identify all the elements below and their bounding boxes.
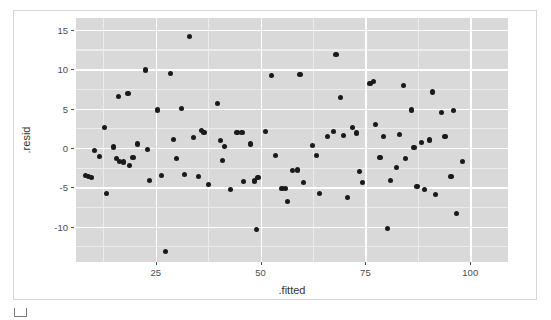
data-point [228, 187, 233, 192]
y-tick-label: -10 [40, 221, 68, 232]
data-point [333, 52, 338, 57]
data-point [295, 167, 300, 172]
data-point [297, 72, 302, 77]
gridline [76, 207, 508, 208]
data-point [460, 159, 465, 164]
gridline [261, 18, 263, 262]
data-point [163, 249, 168, 254]
data-point [255, 175, 260, 180]
gridline [156, 18, 158, 262]
data-point [285, 199, 290, 204]
data-point [331, 129, 336, 134]
caption-strip [0, 308, 551, 320]
x-tick-label: 100 [462, 267, 478, 278]
y-tick-label: 15 [40, 24, 68, 35]
gridline [365, 18, 367, 262]
y-tick-mark [71, 30, 74, 31]
data-point [314, 153, 319, 158]
data-point [273, 153, 278, 158]
data-point [345, 195, 350, 200]
data-point [220, 158, 225, 163]
y-tick-mark [71, 227, 74, 228]
data-point [263, 129, 268, 134]
data-point [174, 156, 179, 161]
data-point [97, 154, 102, 159]
data-point [427, 137, 432, 142]
data-point [409, 107, 414, 112]
data-point [248, 141, 253, 146]
data-point [104, 191, 109, 196]
gridline [103, 18, 104, 262]
y-tick-mark [71, 148, 74, 149]
y-tick-mark [71, 109, 74, 110]
data-point [182, 172, 187, 177]
gridline [76, 128, 508, 129]
data-point [310, 143, 315, 148]
data-point [125, 91, 130, 96]
data-point [388, 178, 393, 183]
x-tick-label: 50 [255, 267, 266, 278]
data-point [439, 110, 444, 115]
data-point [414, 184, 419, 189]
data-point [127, 163, 132, 168]
data-point [218, 138, 223, 143]
x-tick-mark [156, 262, 157, 265]
x-tick-mark [470, 262, 471, 265]
data-point [269, 73, 274, 78]
data-point [196, 174, 201, 179]
data-point [145, 147, 150, 152]
y-tick-mark [71, 187, 74, 188]
gridline [470, 18, 472, 262]
data-point [377, 155, 382, 160]
data-point [135, 141, 140, 146]
data-point [168, 71, 173, 76]
data-point [419, 140, 424, 145]
data-point [155, 107, 160, 112]
x-axis-title: .fitted [279, 284, 306, 296]
data-point [341, 133, 346, 138]
data-point [448, 174, 453, 179]
data-point [159, 173, 164, 178]
gridline [76, 246, 508, 247]
data-point [360, 180, 365, 185]
data-point [116, 94, 121, 99]
gridline [76, 30, 508, 32]
data-point [442, 134, 447, 139]
data-point [357, 169, 362, 174]
data-point [422, 187, 427, 192]
data-point [301, 180, 306, 185]
data-point [254, 227, 259, 232]
data-point [290, 168, 295, 173]
data-point [354, 130, 359, 135]
gridline [76, 89, 508, 90]
gridline [208, 18, 209, 262]
gridline [313, 18, 314, 262]
data-point [239, 130, 244, 135]
data-point [381, 134, 386, 139]
square-outline-icon [14, 308, 27, 317]
data-point [454, 211, 459, 216]
data-point [121, 159, 126, 164]
y-axis-title: .resid [20, 127, 32, 154]
x-tick-mark [365, 262, 366, 265]
y-tick-label: 5 [40, 103, 68, 114]
data-point [325, 134, 330, 139]
data-point [371, 79, 376, 84]
data-point [201, 130, 206, 135]
data-point [430, 89, 435, 94]
data-point [411, 145, 416, 150]
caption-row [14, 308, 36, 317]
scatter-plot: 151050-5-10255075100 .resid .fitted [0, 0, 551, 320]
data-point [143, 67, 148, 72]
data-point [433, 192, 438, 197]
data-point [191, 135, 196, 140]
x-tick-mark [261, 262, 262, 265]
data-point [215, 101, 220, 106]
data-point [385, 226, 390, 231]
data-point [179, 106, 184, 111]
y-tick-label: 10 [40, 64, 68, 75]
x-tick-label: 25 [150, 267, 161, 278]
data-point [147, 178, 152, 183]
gridline [76, 227, 508, 229]
data-point [401, 83, 406, 88]
